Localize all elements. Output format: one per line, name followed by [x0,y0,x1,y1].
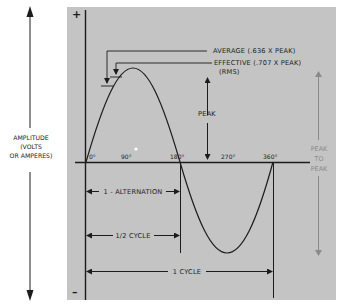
amplitude-units-label-1: (VOLTS [20,143,42,150]
half-cycle-label: 1/2 CYCLE [115,232,150,240]
amplitude-label: AMPLITUDE [13,134,49,141]
sine-wave-diagram: AMPLITUDE (VOLTS OR AMPERES) + – 0° 90° … [0,0,342,307]
rms-label: (RMS) [219,68,240,76]
peak-label: PEAK [198,110,216,118]
plus-sign: + [72,8,81,21]
peak-to-peak-label-2: TO [314,155,324,163]
peak-to-peak-label-1: PEAK [311,145,328,153]
effective-label: EFFECTIVE (.707 X PEAK) [214,59,301,67]
full-cycle-label: 1 CYCLE [173,268,201,276]
tick-180: 180° [170,153,184,160]
tick-90: 90° [121,153,132,160]
arrow-up-icon [27,6,34,17]
arrow-down-icon [27,290,34,301]
alternation-label: 1 - ALTERNATION [104,188,163,196]
tick-360: 360° [263,153,277,160]
highlight-dot [134,147,137,150]
average-label: AVERAGE (.636 X PEAK) [213,47,296,55]
tick-270: 270° [221,153,235,160]
minus-sign: – [72,286,78,299]
tick-0: 0° [89,153,96,160]
amplitude-units-label-2: OR AMPERES) [10,152,53,159]
peak-to-peak-label-3: PEAK [311,165,328,173]
